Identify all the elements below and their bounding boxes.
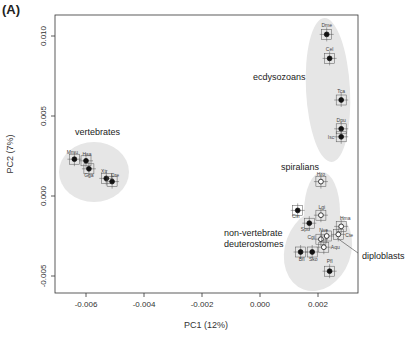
label-vertebrates: vertebrates bbox=[75, 127, 121, 137]
point-label: Dre bbox=[111, 172, 119, 178]
point-label: Lgi bbox=[319, 204, 326, 210]
x-axis-ticks: -0.006-0.004-0.0020.0000.002 bbox=[75, 293, 329, 309]
point-label: Bfl bbox=[299, 256, 305, 262]
y-tick-label: 0.000 bbox=[39, 185, 48, 206]
x-tick-label: 0.000 bbox=[250, 300, 271, 309]
point-label: Cgi bbox=[307, 234, 315, 240]
point-label: Gga bbox=[84, 172, 94, 178]
x-tick-label: -0.002 bbox=[191, 300, 214, 309]
x-tick-label: 0.002 bbox=[308, 300, 329, 309]
pca-scatter-plot: -0.006-0.004-0.0020.0000.002 -0.0050.000… bbox=[0, 0, 407, 341]
point-label: Isc bbox=[328, 134, 335, 140]
y-axis-ticks: -0.0050.0000.0050.010 bbox=[39, 25, 55, 287]
point-label: Dme bbox=[321, 22, 332, 28]
point-label: Spu bbox=[301, 226, 310, 232]
point-label: Hro bbox=[317, 171, 325, 177]
x-tick-label: -0.004 bbox=[133, 300, 156, 309]
data-point-dme: Dme bbox=[320, 22, 334, 41]
label-ecdysozoans: ecdysozoans bbox=[253, 72, 306, 82]
point-label: Xtr bbox=[101, 168, 108, 174]
point-label: Nve bbox=[319, 227, 328, 233]
point-label: Cin bbox=[292, 213, 300, 219]
point-label: Sko bbox=[309, 256, 318, 262]
point-label: Cte bbox=[345, 232, 353, 238]
group-regions bbox=[59, 17, 363, 301]
y-tick-label: 0.010 bbox=[39, 25, 48, 46]
point-label: Cel bbox=[326, 46, 334, 52]
point-label: Hma bbox=[340, 215, 351, 221]
label-nvd-line1: non-vertebrate bbox=[224, 228, 283, 238]
point-label: Dpu bbox=[337, 117, 346, 123]
point-label: Aqu bbox=[331, 244, 340, 250]
label-nvd-line2: deuterostomes bbox=[224, 239, 284, 249]
point-label: Mmu bbox=[67, 149, 78, 155]
label-diploblasts: diploblasts bbox=[362, 251, 405, 261]
y-tick-label: -0.005 bbox=[39, 264, 48, 287]
point-label: Pfl bbox=[327, 258, 333, 264]
y-axis-label: PC2 (7%) bbox=[5, 134, 15, 173]
x-axis-label: PC1 (12%) bbox=[184, 320, 228, 330]
label-spiralians: spiralians bbox=[281, 162, 320, 172]
point-label: Tca bbox=[337, 88, 345, 94]
point-label: Hsa bbox=[83, 151, 92, 157]
y-tick-label: 0.005 bbox=[39, 105, 48, 126]
x-tick-label: -0.006 bbox=[75, 300, 98, 309]
